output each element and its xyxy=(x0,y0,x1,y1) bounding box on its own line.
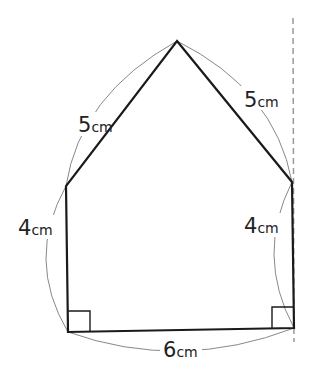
pentagon-shape xyxy=(66,41,294,332)
pentagon-diagram: 5cm 5cm 4cm 4cm 6cm xyxy=(0,0,314,383)
arc-right-side xyxy=(274,182,294,328)
right-angle-mark-bottom-right xyxy=(272,307,294,328)
right-angle-mark-bottom-left xyxy=(68,311,90,332)
arc-left-side xyxy=(46,186,68,332)
